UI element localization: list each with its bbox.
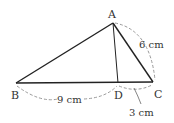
segment-ab <box>16 23 113 83</box>
arc-ac-dashed <box>115 23 155 80</box>
label-d: D <box>114 89 123 102</box>
arc-bd-dashed-right <box>84 86 117 99</box>
measure-ac: 6 cm <box>139 39 164 50</box>
segment-bc <box>16 82 153 83</box>
label-c: C <box>154 88 162 101</box>
label-b: B <box>11 89 19 102</box>
measure-bd: 9 cm <box>57 94 82 105</box>
dc-leader-line <box>134 88 141 104</box>
segment-ac <box>113 23 153 82</box>
triangle-diagram: A B D C 6 cm 9 cm 3 cm <box>0 0 174 123</box>
measure-dc: 3 cm <box>129 107 154 118</box>
segment-ad <box>113 23 118 83</box>
arc-dc-dashed <box>119 85 152 89</box>
label-a: A <box>107 8 117 21</box>
arc-bd-dashed-left <box>17 86 58 100</box>
